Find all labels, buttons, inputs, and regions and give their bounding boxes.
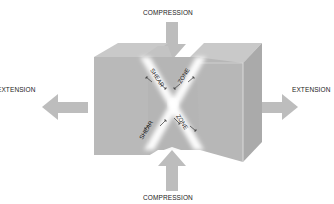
stress-diagram: SHEAR ZONE SHEAR ZONE COMPRESSION COMPRE… xyxy=(0,0,334,204)
extension-arrow-right-icon xyxy=(262,94,298,120)
block-illustration: SHEAR ZONE SHEAR ZONE xyxy=(0,0,334,204)
right-block-front xyxy=(196,57,243,162)
compression-arrow-up-icon xyxy=(158,150,186,191)
extension-arrow-left-icon xyxy=(42,94,88,120)
right-block-side xyxy=(243,43,262,162)
compression-label-top: COMPRESSION xyxy=(143,9,193,16)
extension-label-left: EXTENSION xyxy=(0,86,35,93)
compression-label-bottom: COMPRESSION xyxy=(143,194,193,201)
extension-label-right: EXTENSION xyxy=(292,86,330,93)
